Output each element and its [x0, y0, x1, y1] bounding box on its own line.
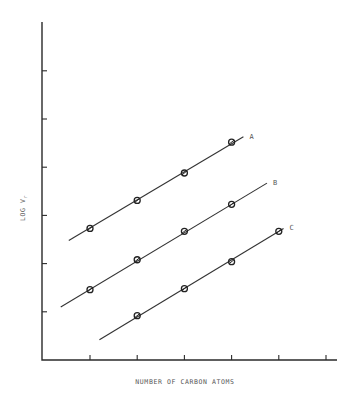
- series-label: B: [273, 179, 277, 187]
- y-axis-title-main: LOG V: [19, 199, 27, 222]
- fit-line: [69, 137, 244, 241]
- marker-slash: [276, 229, 281, 233]
- series-a: A: [69, 133, 255, 241]
- chart: ABC NUMBER OF CARBON ATOMS LOG Vr: [0, 0, 351, 401]
- axes: [42, 22, 337, 360]
- x-axis-title: NUMBER OF CARBON ATOMS: [135, 378, 234, 386]
- axis-lines: [42, 22, 337, 360]
- series-c: C: [99, 224, 293, 339]
- marker-slash: [88, 288, 93, 292]
- y-axis-title-subscript: r: [22, 195, 28, 199]
- series-label: C: [290, 224, 294, 232]
- marker-slash: [229, 202, 234, 206]
- series-b: B: [61, 179, 277, 307]
- series-label: A: [249, 133, 254, 141]
- fit-line: [99, 228, 283, 339]
- series-group: ABC: [61, 133, 294, 340]
- y-axis-title: LOG Vr: [19, 195, 28, 221]
- marker-slash: [182, 287, 187, 291]
